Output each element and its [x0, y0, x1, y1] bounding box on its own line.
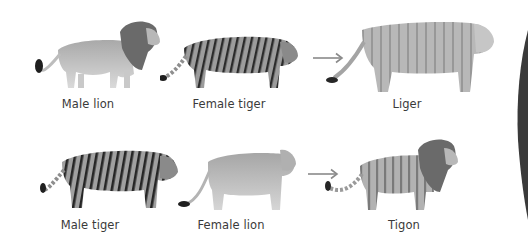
- label-tigon: Tigon: [388, 218, 420, 232]
- female-tiger-illustration: [160, 28, 305, 94]
- label-male-tiger: Male tiger: [61, 218, 120, 232]
- label-male-lion: Male lion: [62, 97, 115, 111]
- label-female-tiger: Female tiger: [192, 97, 265, 111]
- label-female-lion: Female lion: [197, 218, 264, 232]
- label-liger: Liger: [392, 97, 421, 111]
- partial-animal-illustration: [516, 30, 528, 220]
- female-lion-illustration: [178, 144, 298, 214]
- male-tiger-illustration: [40, 146, 180, 212]
- male-lion-illustration: [30, 14, 170, 94]
- tigon-illustration: [320, 136, 465, 216]
- liger-illustration: [326, 16, 498, 96]
